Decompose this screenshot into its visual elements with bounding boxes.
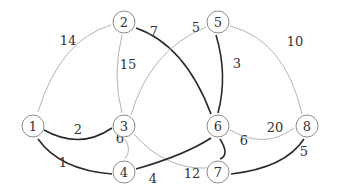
weight-5-6: 3 bbox=[233, 56, 241, 71]
weight-1-3: 2 bbox=[74, 122, 82, 137]
node-label: 1 bbox=[29, 119, 37, 134]
node-label: 6 bbox=[214, 119, 222, 134]
edge-3-7 bbox=[134, 134, 208, 168]
node-6: 6 bbox=[207, 115, 229, 137]
weight-1-4: 1 bbox=[59, 155, 67, 170]
weight-4-6: 4 bbox=[149, 171, 157, 186]
node-label: 2 bbox=[120, 15, 128, 30]
edge-1-4 bbox=[38, 139, 112, 174]
edge-2-3 bbox=[117, 35, 122, 113]
weight-2-6: 7 bbox=[150, 24, 158, 39]
node-label: 5 bbox=[214, 15, 222, 30]
weight-6-7: 6 bbox=[240, 133, 248, 148]
edge-6-7 bbox=[220, 139, 225, 159]
weight-1-2: 14 bbox=[60, 33, 77, 48]
edge-3-5 bbox=[131, 27, 206, 115]
weight-7-8: 5 bbox=[300, 144, 308, 159]
node-3: 3 bbox=[113, 115, 135, 137]
node-label: 4 bbox=[120, 165, 128, 180]
weight-3-7: 12 bbox=[184, 166, 201, 181]
node-2: 2 bbox=[113, 11, 135, 33]
node-4: 4 bbox=[113, 161, 135, 183]
node-label: 3 bbox=[120, 119, 128, 134]
edge-weights: 14 2 1 15 7 5 6 12 4 3 10 6 20 5 bbox=[59, 20, 308, 186]
edge-4-6 bbox=[136, 138, 211, 169]
edge-3-4 bbox=[125, 139, 129, 159]
node-8: 8 bbox=[296, 115, 318, 137]
edge-5-6 bbox=[216, 35, 223, 113]
weight-5-8: 10 bbox=[287, 34, 304, 49]
node-1: 1 bbox=[22, 115, 44, 137]
edges bbox=[38, 25, 304, 174]
node-5: 5 bbox=[207, 11, 229, 33]
node-label: 8 bbox=[303, 119, 311, 134]
edge-2-6 bbox=[136, 28, 211, 114]
weight-3-5: 5 bbox=[192, 20, 200, 35]
weighted-graph-diagram: 14 2 1 15 7 5 6 12 4 3 10 6 20 5 1 2 3 4 bbox=[0, 0, 360, 193]
weight-6-8: 20 bbox=[267, 120, 284, 135]
node-7: 7 bbox=[207, 161, 229, 183]
weight-2-3: 15 bbox=[120, 57, 137, 72]
node-label: 7 bbox=[214, 165, 222, 180]
